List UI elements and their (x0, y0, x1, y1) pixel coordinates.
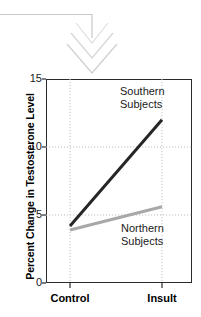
series-label-northern-line1: Northern (121, 222, 164, 235)
series-label-southern-line2: Subjects (120, 98, 165, 111)
y-axis-title: Percent Change in Testosterone Level (25, 81, 36, 293)
xtick-label-control: Control (40, 292, 100, 304)
xtick-label-insult: Insult (134, 292, 190, 304)
plot-area-frame (46, 79, 192, 283)
series-label-southern: Southern Subjects (120, 85, 165, 110)
series-label-southern-line1: Southern (120, 85, 165, 98)
series-label-northern: Northern Subjects (121, 222, 164, 247)
line-chart: 0 5 10 15 Control Insult Percent Change … (0, 0, 201, 317)
series-label-northern-line2: Subjects (121, 235, 164, 248)
